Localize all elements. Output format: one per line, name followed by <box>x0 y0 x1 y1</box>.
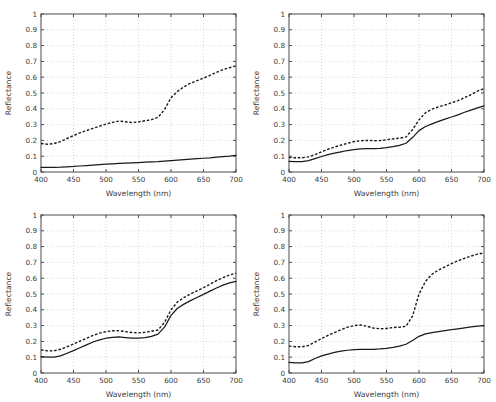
y-tick-label: 0.6 <box>274 274 286 283</box>
x-tick-label: 450 <box>67 376 81 385</box>
y-tick-label: 0.7 <box>26 258 37 267</box>
panel-bottom-left: 00.10.20.30.40.50.60.70.80.9140045050055… <box>0 201 248 402</box>
y-tick-label: 0.3 <box>274 120 285 129</box>
x-tick-label: 400 <box>34 175 48 184</box>
y-tick-label: 0.9 <box>274 25 286 34</box>
y-axis-title: Reflectance <box>252 70 261 115</box>
x-tick-label: 500 <box>99 376 113 385</box>
y-tick-label: 1 <box>280 211 285 220</box>
x-tick-label: 400 <box>282 175 296 184</box>
y-tick-label: 0.8 <box>26 242 38 251</box>
x-tick-label: 550 <box>132 175 146 184</box>
y-axis-title: Reflectance <box>4 271 13 316</box>
y-tick-label: 0.6 <box>274 73 286 82</box>
x-tick-label: 550 <box>380 175 394 184</box>
y-tick-label: 0.2 <box>274 337 285 346</box>
y-tick-label: 0.6 <box>26 73 38 82</box>
y-tick-label: 0.4 <box>26 305 38 314</box>
y-tick-label: 0.3 <box>26 120 37 129</box>
x-tick-label: 600 <box>412 175 426 184</box>
axis-ticks: 00.10.20.30.40.50.60.70.80.9140045050055… <box>274 211 492 385</box>
x-axis-title: Wavelength (nm) <box>354 390 420 399</box>
y-tick-label: 0.2 <box>26 136 37 145</box>
x-tick-label: 550 <box>132 376 146 385</box>
x-tick-label: 400 <box>34 376 48 385</box>
x-tick-label: 600 <box>412 376 426 385</box>
x-tick-label: 700 <box>229 175 243 184</box>
y-tick-label: 0.4 <box>274 305 286 314</box>
x-tick-label: 500 <box>347 175 361 184</box>
x-tick-label: 500 <box>99 175 113 184</box>
grid-lines <box>41 14 236 172</box>
y-tick-label: 0.2 <box>26 337 37 346</box>
x-tick-label: 650 <box>197 175 211 184</box>
y-tick-label: 0.8 <box>274 41 286 50</box>
x-tick-label: 450 <box>67 175 81 184</box>
y-tick-label: 1 <box>32 10 37 19</box>
x-tick-label: 550 <box>380 376 394 385</box>
x-axis-title: Wavelength (nm) <box>354 189 420 198</box>
x-tick-label: 450 <box>315 175 329 184</box>
y-tick-label: 0.9 <box>274 226 286 235</box>
x-tick-label: 600 <box>164 175 178 184</box>
x-tick-label: 650 <box>445 376 459 385</box>
y-tick-label: 0.4 <box>274 104 286 113</box>
x-tick-label: 500 <box>347 376 361 385</box>
y-tick-label: 0.9 <box>26 25 38 34</box>
y-tick-label: 0.4 <box>26 104 38 113</box>
x-tick-label: 700 <box>229 376 243 385</box>
x-tick-label: 600 <box>164 376 178 385</box>
x-axis-title: Wavelength (nm) <box>106 390 172 399</box>
x-tick-label: 400 <box>282 376 296 385</box>
y-tick-label: 1 <box>280 10 285 19</box>
y-tick-label: 0.1 <box>274 353 285 362</box>
x-tick-label: 650 <box>445 175 459 184</box>
y-tick-label: 0.5 <box>26 89 37 98</box>
x-tick-label: 650 <box>197 376 211 385</box>
y-axis-title: Reflectance <box>4 70 13 115</box>
y-tick-label: 0.8 <box>26 41 38 50</box>
panel-bottom-right: 00.10.20.30.40.50.60.70.80.9140045050055… <box>248 201 496 402</box>
y-tick-label: 0.9 <box>26 226 38 235</box>
y-tick-label: 0.6 <box>26 274 38 283</box>
y-tick-label: 1 <box>32 211 37 220</box>
y-tick-label: 0.7 <box>274 258 285 267</box>
y-tick-label: 0.1 <box>26 152 37 161</box>
grid-lines <box>289 14 484 172</box>
panel-top-right: 00.10.20.30.40.50.60.70.80.9140045050055… <box>248 0 496 201</box>
y-tick-label: 0.3 <box>274 321 285 330</box>
x-tick-label: 450 <box>315 376 329 385</box>
y-axis-title: Reflectance <box>252 271 261 316</box>
y-tick-label: 0.5 <box>26 290 37 299</box>
axis-ticks: 00.10.20.30.40.50.60.70.80.9140045050055… <box>274 10 492 184</box>
y-tick-label: 0.3 <box>26 321 37 330</box>
y-tick-label: 0.7 <box>274 57 285 66</box>
panel-top-left: 00.10.20.30.40.50.60.70.80.9140045050055… <box>0 0 248 201</box>
y-tick-label: 0.8 <box>274 242 286 251</box>
y-tick-label: 0.2 <box>274 136 285 145</box>
axis-ticks: 00.10.20.30.40.50.60.70.80.9140045050055… <box>26 211 244 385</box>
grid-lines <box>289 215 484 373</box>
series-solid <box>41 281 236 357</box>
y-tick-label: 0.5 <box>274 89 285 98</box>
x-tick-label: 700 <box>477 175 491 184</box>
x-tick-label: 700 <box>477 376 491 385</box>
y-tick-label: 0.1 <box>26 353 37 362</box>
series-solid <box>289 106 484 162</box>
figure-grid: 00.10.20.30.40.50.60.70.80.9140045050055… <box>0 0 496 402</box>
y-tick-label: 0.7 <box>26 57 37 66</box>
x-axis-title: Wavelength (nm) <box>106 189 172 198</box>
y-tick-label: 0.1 <box>274 152 285 161</box>
y-tick-label: 0.5 <box>274 290 285 299</box>
grid-lines <box>41 215 236 373</box>
